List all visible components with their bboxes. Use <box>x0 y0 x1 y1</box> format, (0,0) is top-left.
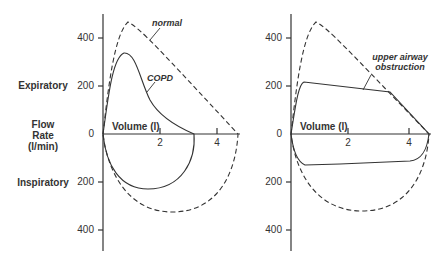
inspiratory-label: Inspiratory <box>12 177 74 188</box>
right-xtick-4: 4 <box>402 137 416 148</box>
right-panel-axes <box>286 14 431 251</box>
flow-rate-line-1: Flow <box>14 119 72 130</box>
left-ytick-400-bottom: 400 <box>70 224 94 235</box>
normal-leader-line <box>150 28 160 40</box>
left-ytick-0: 0 <box>70 128 94 139</box>
expiratory-label: Expiratory <box>14 80 72 91</box>
left-panel-axes <box>98 14 240 251</box>
right-ytick-400-top: 400 <box>258 32 282 43</box>
left-ytick-400-top: 400 <box>70 32 94 43</box>
uao-annotation-line-1: upper airway <box>368 52 432 62</box>
flow-rate-line-3: (l/min) <box>14 141 72 152</box>
uao-annotation-line-2: obstruction <box>368 62 432 72</box>
left-xlabel: Volume (l) <box>112 121 160 132</box>
left-ytick-200-bottom: 200 <box>70 176 94 187</box>
right-ytick-400-bottom: 400 <box>258 224 282 235</box>
right-xlabel: Volume (l) <box>300 121 348 132</box>
left-ytick-200-top: 200 <box>70 80 94 91</box>
right-ytick-200-top: 200 <box>258 80 282 91</box>
uao-annotation: upper airway obstruction <box>368 52 432 72</box>
left-xtick-2: 2 <box>153 137 167 148</box>
copd-leader-line <box>147 82 155 92</box>
flow-rate-line-2: Rate <box>14 130 72 141</box>
normal-annotation: normal <box>152 18 182 28</box>
right-ytick-0: 0 <box>258 128 282 139</box>
flow-rate-label: Flow Rate (l/min) <box>14 119 72 152</box>
copd-annotation: COPD <box>147 73 173 83</box>
left-xtick-4: 4 <box>210 137 224 148</box>
uao-leader-line <box>363 75 371 90</box>
right-xtick-2: 2 <box>341 137 355 148</box>
right-ytick-200-bottom: 200 <box>258 176 282 187</box>
right-normal-curve <box>291 22 429 211</box>
